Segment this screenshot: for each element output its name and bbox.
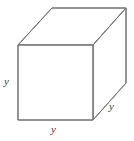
label-width-y: y (51, 124, 56, 135)
label-height-y: y (4, 76, 9, 87)
cube-drawing (0, 0, 134, 141)
cube-front-face (18, 45, 93, 120)
cube-figure: y y y (0, 0, 134, 141)
label-depth-y: y (109, 101, 114, 112)
